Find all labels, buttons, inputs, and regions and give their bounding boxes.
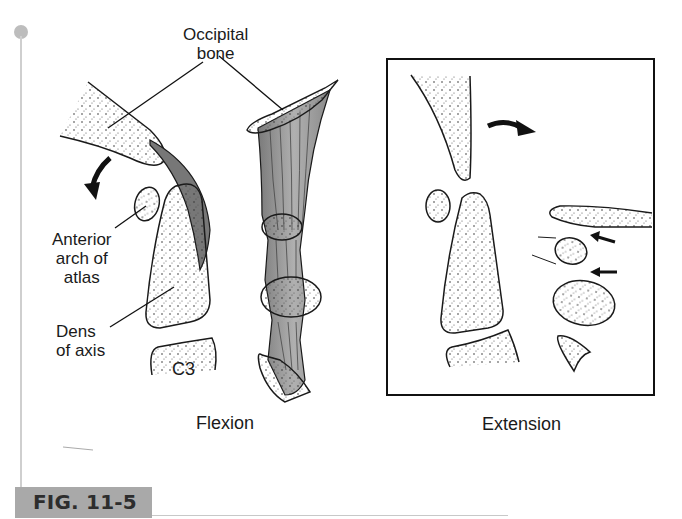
occipital-posterior-ext: [550, 206, 652, 227]
label-anterior-line2: arch of: [52, 249, 112, 268]
spinous-c2-ext: [550, 276, 619, 330]
label-c3: C3: [172, 360, 195, 379]
anterior-arch-atlas-ext: [426, 190, 450, 222]
compression-arrow-1-icon: [598, 237, 615, 242]
spinous-c1-ext: [552, 234, 590, 267]
label-anterior-line1: Anterior: [52, 230, 112, 249]
figure-number-label: FIG. 11-5: [15, 487, 152, 518]
dens-of-axis-ext: [441, 193, 503, 333]
caption-flexion: Flexion: [196, 413, 254, 434]
occipital-bone: [60, 82, 165, 165]
label-anterior-line3: atlas: [52, 268, 112, 287]
label-occipital-line1: Occipital: [183, 25, 248, 44]
label-occipital-bone: Occipital bone: [183, 25, 248, 63]
label-occipital-line2: bone: [183, 44, 248, 63]
spinous-c1: [262, 214, 302, 240]
spinous-c3-ext: [558, 336, 590, 371]
occipital-bone-extension: [411, 75, 471, 180]
anterior-arch-atlas: [131, 184, 163, 223]
nuchal-ligament: [258, 90, 330, 395]
spinous-c2: [261, 277, 321, 317]
label-dens: Dens of axis: [56, 322, 105, 360]
flexion-ligament-view: [219, 56, 338, 402]
extension-panel: [387, 59, 654, 395]
label-dens-line1: Dens: [56, 322, 105, 341]
c3-vertebra-ext: [446, 330, 519, 367]
bottom-rule: [152, 515, 508, 516]
caption-extension: Extension: [482, 414, 561, 435]
label-dens-line2: of axis: [56, 341, 105, 360]
label-anterior-arch: Anterior arch of atlas: [52, 230, 112, 287]
